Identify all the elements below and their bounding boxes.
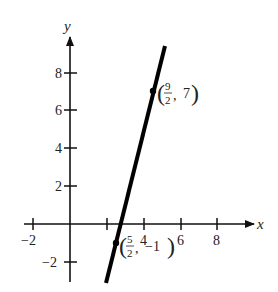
x-tick-label-6: 6 <box>177 233 184 248</box>
svg-text:(: ( <box>119 233 127 259</box>
svg-text:2: 2 <box>127 247 133 259</box>
line-graph: x y −2 4 6 8 8 6 4 2 −2 ( 9 2 , 7 ) <box>0 0 278 292</box>
svg-text:): ) <box>191 80 199 106</box>
x-tick-label-neg2: −2 <box>21 233 36 248</box>
svg-text:9: 9 <box>165 80 171 92</box>
x-tick-label-8: 8 <box>213 233 220 248</box>
svg-text:2: 2 <box>165 94 171 106</box>
svg-text:): ) <box>167 233 175 259</box>
svg-text:,: , <box>173 88 177 103</box>
y-tick-label-6: 6 <box>55 103 62 118</box>
x-axis-label: x <box>256 216 264 232</box>
y-tick-label-2: 2 <box>55 179 62 194</box>
y-axis-label: y <box>62 18 71 34</box>
y-tick-label-4: 4 <box>55 141 62 156</box>
annotation-point-5-2-neg1: ( 5 2 , −1 ) <box>119 233 175 259</box>
y-tick-label-8: 8 <box>55 66 62 81</box>
y-tick-label-neg2: −2 <box>42 255 57 270</box>
annotation-point-9-2-7: ( 9 2 , 7 ) <box>157 80 199 106</box>
point-9-2-7 <box>150 88 156 94</box>
svg-text:,: , <box>135 241 139 256</box>
svg-text:7: 7 <box>183 86 190 101</box>
svg-text:(: ( <box>157 80 165 106</box>
svg-text:−1: −1 <box>145 239 160 254</box>
svg-text:5: 5 <box>127 233 133 245</box>
